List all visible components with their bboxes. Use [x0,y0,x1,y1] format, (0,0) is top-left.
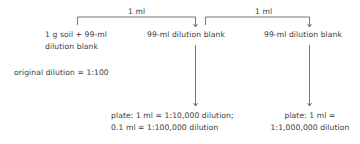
plate-arrow-2 [308,45,312,106]
transfer-label-1: 1 ml [128,6,145,17]
plate-arrow-1 [194,45,198,106]
plate-result-1-line2: 0.1 ml = 1:100,000 dilution [111,122,219,133]
node-dilution-blank-3: 99-ml dilution blank [264,29,342,40]
plate-result-2-line2: 1:1,000,000 dilution [266,122,354,133]
node-dilution-blank-2: 99-ml dilution blank [147,29,225,40]
plate-result-1-line1: plate: 1 ml = 1:10,000 dilution; [111,110,234,121]
plate-result-2-line1: plate: 1 ml = [270,110,350,121]
node-soil-blank-line2: dilution blank [45,41,98,52]
transfer-label-2: 1 ml [255,6,272,17]
transfer-arrow-2 [206,17,312,27]
node-soil-blank-line1: 1 g soil + 99-ml [45,29,107,40]
transfer-arrow-1 [78,17,198,27]
original-dilution-label: original dilution = 1:100 [14,67,109,78]
